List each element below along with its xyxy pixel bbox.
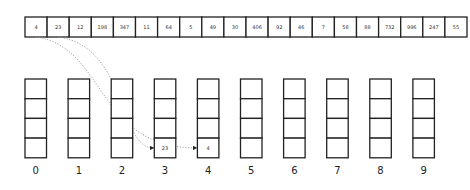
radix-sort-diagram: 4231219834711645493040692467588873299624…	[0, 0, 470, 190]
bucket-slot	[370, 118, 392, 138]
array-cell-value: 88	[364, 24, 370, 30]
bucket-7: 7	[327, 79, 349, 176]
bucket-label: 2	[119, 165, 125, 176]
array-cell-value: 4	[34, 24, 37, 30]
bucket-6: 6	[284, 79, 306, 176]
bucket-slot	[111, 138, 133, 158]
bucket-8: 8	[370, 79, 392, 176]
array-cell: 198	[91, 17, 113, 37]
bucket-label: 7	[334, 165, 340, 176]
bucket-slot	[241, 79, 263, 99]
bucket-9: 9	[413, 79, 435, 176]
bucket-slot	[327, 79, 349, 99]
array-cell: 247	[423, 17, 445, 37]
array-cell: 49	[202, 17, 224, 37]
array-cell: 406	[246, 17, 268, 37]
bucket-slot	[241, 138, 263, 158]
bucket-slot	[25, 79, 47, 99]
array-cell-value: 247	[429, 24, 439, 30]
bucket-slot	[68, 99, 90, 119]
bucket-2: 2	[111, 79, 133, 176]
bucket-0: 0	[25, 79, 47, 176]
bucket-item: 23	[162, 145, 168, 151]
bucket-slot	[197, 99, 219, 119]
array-cell: 12	[69, 17, 91, 37]
input-array: 4231219834711645493040692467588873299624…	[25, 17, 467, 37]
bucket-4: 44	[197, 79, 219, 176]
array-cell-value: 92	[276, 24, 282, 30]
bucket-slot	[327, 118, 349, 138]
bucket-slot	[154, 99, 176, 119]
array-cell-value: 11	[143, 24, 149, 30]
bucket-label: 6	[291, 165, 297, 176]
array-cell-value: 5	[189, 24, 192, 30]
bucket-item: 4	[207, 145, 210, 151]
array-cell: 5	[180, 17, 202, 37]
array-cell-value: 7	[322, 24, 325, 30]
array-cell-value: 347	[120, 24, 130, 30]
array-cell-value: 732	[385, 24, 395, 30]
bucket-slot	[111, 99, 133, 119]
bucket-slot	[25, 118, 47, 138]
array-cell-value: 198	[98, 24, 108, 30]
array-cell-value: 64	[165, 24, 171, 30]
bucket-label: 0	[33, 165, 39, 176]
bucket-slot	[370, 79, 392, 99]
array-cell: 58	[334, 17, 356, 37]
bucket-slot	[370, 99, 392, 119]
bucket-slot	[197, 79, 219, 99]
bucket-slot	[68, 138, 90, 158]
bucket-slot	[154, 118, 176, 138]
bucket-1: 1	[68, 79, 90, 176]
bucket-slot	[241, 118, 263, 138]
bucket-5: 5	[241, 79, 263, 176]
bucket-slot	[327, 99, 349, 119]
bucket-slot	[413, 79, 435, 99]
array-cell: 732	[379, 17, 401, 37]
bucket-slot	[413, 138, 435, 158]
bucket-slot	[68, 79, 90, 99]
array-cell: 55	[445, 17, 467, 37]
array-cell: 30	[224, 17, 246, 37]
array-cell-value: 12	[77, 24, 83, 30]
bucket-label: 8	[377, 165, 383, 176]
buckets: 0122334456789	[25, 79, 434, 176]
array-cell-value: 46	[298, 24, 304, 30]
array-cell-value: 23	[55, 24, 61, 30]
array-cell-value: 55	[453, 24, 459, 30]
bucket-3: 233	[154, 79, 176, 176]
array-cell: 347	[113, 17, 135, 37]
array-cell: 88	[357, 17, 379, 37]
bucket-slot	[111, 118, 133, 138]
array-cell-value: 406	[252, 24, 262, 30]
bucket-slot	[25, 99, 47, 119]
bucket-slot	[284, 138, 306, 158]
array-cell: 996	[401, 17, 423, 37]
array-cell-value: 49	[210, 24, 216, 30]
bucket-slot	[413, 118, 435, 138]
bucket-slot	[370, 138, 392, 158]
bucket-slot	[25, 138, 47, 158]
bucket-slot	[68, 118, 90, 138]
array-cell-value: 30	[232, 24, 238, 30]
bucket-slot	[241, 99, 263, 119]
bucket-slot	[154, 79, 176, 99]
array-cell-value: 58	[342, 24, 348, 30]
array-cell: 4	[25, 17, 47, 37]
array-cell: 11	[136, 17, 158, 37]
bucket-label: 5	[248, 165, 254, 176]
bucket-slot	[284, 99, 306, 119]
array-cell: 23	[47, 17, 69, 37]
bucket-label: 4	[205, 165, 211, 176]
array-cell: 46	[290, 17, 312, 37]
bucket-slot	[284, 79, 306, 99]
bucket-label: 1	[76, 165, 82, 176]
bucket-slot	[284, 118, 306, 138]
bucket-slot	[197, 118, 219, 138]
array-cell: 7	[312, 17, 334, 37]
array-cell-value: 996	[407, 24, 417, 30]
array-cell: 64	[158, 17, 180, 37]
array-cell: 92	[268, 17, 290, 37]
bucket-label: 3	[162, 165, 168, 176]
bucket-slot	[327, 138, 349, 158]
